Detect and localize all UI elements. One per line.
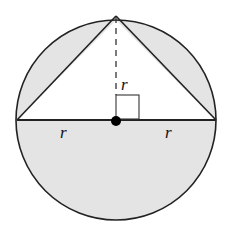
circle-triangle-diagram: r r r	[0, 0, 226, 230]
label-height: r	[121, 75, 128, 94]
label-left-radius: r	[60, 123, 67, 142]
center-point	[111, 116, 121, 126]
label-right-radius: r	[165, 123, 172, 142]
